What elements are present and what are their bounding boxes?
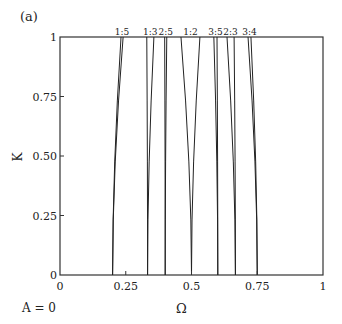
arnold-tongues-plot: 1:51:32:51:23:52:33:4 00.250.50.75100.25…: [0, 0, 342, 324]
tongue-2-3: 2:3: [223, 27, 238, 275]
panel-label: (a): [20, 9, 38, 24]
x-tick-label: 0: [57, 280, 64, 293]
tongue-label: 3:4: [242, 27, 257, 37]
y-tick-label: 1: [50, 31, 57, 44]
y-axis-label: K: [11, 153, 25, 162]
y-tick-label: 0: [50, 269, 57, 282]
y-tick-label: 0.50: [33, 150, 58, 163]
tongue-label: 3:5: [208, 27, 223, 37]
y-tick-label: 0.75: [33, 91, 58, 104]
x-tick-label: 0.75: [245, 280, 270, 293]
x-tick-label: 0.25: [114, 280, 139, 293]
tongue-label: 2:5: [158, 27, 173, 37]
tongue-label: 1:5: [115, 27, 130, 37]
x-tick-label: 0.5: [183, 280, 201, 293]
tongue-1-3: 1:3: [143, 27, 158, 275]
tongue-1-5: 1:5: [113, 27, 130, 275]
tongue-3-4: 3:4: [242, 27, 257, 275]
tongue-label: 2:3: [223, 27, 238, 37]
tongue-3-5: 3:5: [208, 27, 223, 275]
tongue-label: 1:3: [143, 27, 158, 37]
x-tick-label: 1: [320, 280, 327, 293]
tongue-lines: 1:51:32:51:23:52:33:4: [113, 27, 258, 275]
axis-ticks: 00.250.50.75100.250.500.751: [33, 31, 327, 293]
x-axis-label: Ω: [176, 301, 187, 316]
tongue-2-5: 2:5: [158, 27, 173, 275]
y-tick-label: 0.25: [33, 210, 58, 223]
parameter-annotation: A = 0: [22, 301, 56, 315]
tongue-label: 1:2: [183, 27, 197, 37]
tongue-1-2: 1:2: [181, 27, 200, 275]
